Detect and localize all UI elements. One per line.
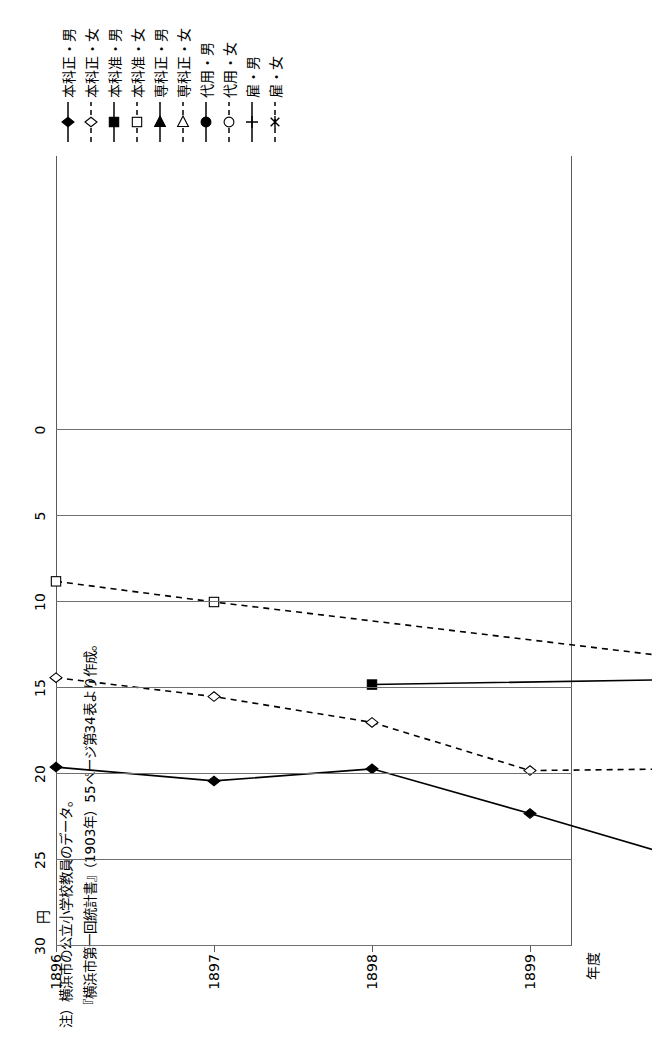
- value-tick-label: 20: [32, 765, 48, 783]
- legend-item: 雇・女: [263, 14, 286, 144]
- category-tick-label: 1896: [48, 954, 64, 990]
- data-point-open-square: [209, 597, 218, 606]
- value-tick-label: 10: [32, 593, 48, 611]
- legend-item-label: 本科准・女: [127, 28, 147, 100]
- value-gridline: [56, 945, 572, 946]
- legend-item-label: 本科正・男: [58, 28, 78, 100]
- value-gridline: [56, 601, 572, 602]
- data-point-open-diamond: [366, 718, 378, 728]
- series-line: [56, 767, 652, 860]
- data-point-open-diamond: [50, 673, 62, 683]
- legend-marker-filled-circle-icon: [196, 100, 216, 144]
- data-point-filled-diamond: [50, 762, 62, 772]
- value-gridline: [56, 429, 572, 430]
- category-tick: [56, 946, 57, 952]
- value-gridline: [56, 687, 572, 688]
- legend-item-label: 専科正・男: [150, 28, 170, 100]
- legend-item-label: 本科准・男: [104, 28, 124, 100]
- rotated-figure-wrapper: 注）横浜市の公立小学校教員のデータ。 『横浜市第一回統計書』（1903年）55ペ…: [0, 0, 652, 1044]
- value-gridline: [56, 859, 572, 860]
- legend-marker-filled-diamond-icon: [58, 100, 78, 144]
- value-axis-unit: 円: [32, 910, 52, 924]
- data-point-open-square: [51, 577, 60, 586]
- legend-marker-asterisk-icon: [265, 100, 285, 144]
- legend-item: 専科正・女: [171, 14, 194, 144]
- value-tick-label: 15: [32, 679, 48, 697]
- legend-item-label: 雇・男: [242, 56, 262, 100]
- legend-item: 雇・男: [240, 14, 263, 144]
- data-point-filled-diamond: [524, 809, 536, 819]
- legend-marker-open-diamond-icon: [81, 100, 101, 144]
- legend-item-label: 本科正・女: [81, 28, 101, 100]
- legend-item: 専科正・男: [148, 14, 171, 144]
- screenshot-page: 注）横浜市の公立小学校教員のデータ。 『横浜市第一回統計書』（1903年）55ペ…: [0, 0, 652, 1044]
- legend-item-label: 代用・男: [196, 42, 216, 100]
- legend-item: 本科正・男: [56, 14, 79, 144]
- category-tick-label: 1899: [522, 954, 538, 990]
- series-line: [56, 678, 652, 771]
- legend-marker-filled-triangle-icon: [150, 100, 170, 144]
- legend-marker-open-square-icon: [127, 100, 147, 144]
- value-tick-label: 25: [32, 851, 48, 869]
- value-tick-label: 5: [32, 512, 48, 521]
- legend-marker-plus-icon: [242, 100, 262, 144]
- category-tick-label: 1897: [206, 954, 222, 990]
- legend-marker-filled-square-icon: [104, 100, 124, 144]
- category-tick-label: 1898: [364, 954, 380, 990]
- category-tick: [530, 946, 531, 952]
- category-axis-name: 年度: [582, 952, 602, 980]
- value-gridline: [56, 515, 572, 516]
- legend-marker-open-triangle-icon: [173, 100, 193, 144]
- legend-item: 本科正・女: [79, 14, 102, 144]
- category-tick: [372, 946, 373, 952]
- legend-item: 本科准・女: [125, 14, 148, 144]
- legend-marker-open-circle-icon: [219, 100, 239, 144]
- value-tick-label: 30: [32, 937, 48, 955]
- legend-item: 代用・男: [194, 14, 217, 144]
- value-gridline: [56, 773, 572, 774]
- plot-area: [56, 156, 572, 946]
- series-line: [56, 581, 652, 658]
- series-layer: [56, 156, 572, 946]
- legend-item: 本科准・男: [102, 14, 125, 144]
- note-line-2: 『横浜市第一回統計書』（1903年）55ページ第34表より作成。: [80, 958, 100, 1028]
- category-tick: [214, 946, 215, 952]
- data-point-open-diamond: [208, 692, 220, 702]
- chart-legend: 本科正・男本科正・女本科准・男本科准・女専科正・男専科正・女代用・男代用・女雇・…: [56, 14, 286, 144]
- legend-item-label: 代用・女: [219, 42, 239, 100]
- legend-item-label: 専科正・女: [173, 28, 193, 100]
- legend-item: 代用・女: [217, 14, 240, 144]
- chart-figure: 注）横浜市の公立小学校教員のデータ。 『横浜市第一回統計書』（1903年）55ペ…: [0, 0, 652, 1044]
- value-tick-label: 0: [32, 426, 48, 435]
- legend-item-label: 雇・女: [265, 56, 285, 100]
- data-point-filled-diamond: [208, 776, 220, 786]
